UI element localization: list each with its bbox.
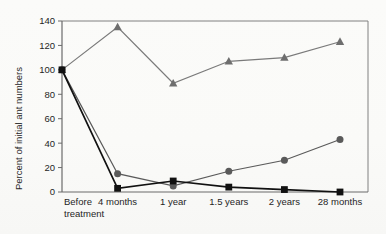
x-category-label: 28 months <box>318 196 363 207</box>
x-category-label: Before <box>64 196 92 207</box>
series-circle <box>59 66 344 189</box>
series-line-square <box>62 70 340 192</box>
y-tick-label: 100 <box>39 64 55 75</box>
y-axis-ticks: 020406080100120140 <box>39 15 62 197</box>
series-line-triangle <box>62 27 340 83</box>
chart-figure: Percent of initial ant numbers 020406080… <box>0 0 386 234</box>
y-tick-label: 40 <box>44 138 55 149</box>
y-tick-label: 80 <box>44 89 55 100</box>
data-point-triangle <box>113 23 121 31</box>
data-point-triangle <box>336 37 344 45</box>
data-point-square <box>337 189 344 196</box>
series-line-circle <box>62 70 340 186</box>
data-point-circle <box>281 157 288 164</box>
x-category-label: 1 year <box>160 196 186 207</box>
x-category-label: 1.5 years <box>209 196 248 207</box>
y-axis-title: Percent of initial ant numbers <box>13 67 24 190</box>
data-point-square <box>225 184 232 191</box>
x-category-label: 4 months <box>98 196 137 207</box>
y-tick-label: 0 <box>50 186 55 197</box>
x-axis-labels: Beforetreatment4 months1 year1.5 years2 … <box>64 196 362 219</box>
y-tick-label: 20 <box>44 162 55 173</box>
data-point-square <box>170 178 177 185</box>
y-tick-label: 60 <box>44 113 55 124</box>
data-point-circle <box>225 168 232 175</box>
data-point-square <box>114 185 121 192</box>
data-point-circle <box>114 170 121 177</box>
y-tick-label: 140 <box>39 15 55 26</box>
ant-numbers-line-chart: Percent of initial ant numbers 020406080… <box>0 0 386 234</box>
x-category-label: 2 years <box>269 196 300 207</box>
data-point-square <box>59 66 66 73</box>
x-category-label: treatment <box>64 208 104 219</box>
y-tick-label: 120 <box>39 40 55 51</box>
series-triangle <box>58 23 344 87</box>
data-point-square <box>281 186 288 193</box>
series-square <box>59 66 344 195</box>
data-point-circle <box>337 136 344 143</box>
series-layer <box>58 23 344 196</box>
